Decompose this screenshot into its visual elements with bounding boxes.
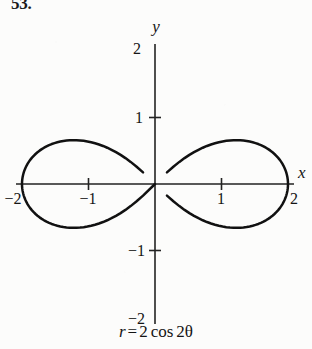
y-tick-label-neg1: −1 [128, 242, 145, 259]
equation-lhs: r [119, 322, 126, 341]
y-tick-label-pos1: 1 [135, 109, 143, 126]
equation-coefficient: 2 [139, 322, 148, 341]
equation-argument: 2θ [173, 322, 193, 341]
x-axis-label: x [297, 163, 306, 182]
axis-name-labels: y x [150, 17, 306, 182]
x-tick-label-neg1: −1 [79, 190, 96, 207]
equation-caption: r=2cos2θ [0, 322, 312, 342]
polar-figure: 53. y x −2 −1 1 [0, 0, 312, 349]
equation-equals: = [126, 322, 140, 341]
equation-function: cos [148, 322, 174, 341]
x-tick-label-pos1: 1 [217, 190, 225, 207]
x-tick-label-pos2: 2 [290, 190, 298, 207]
polar-plot-svg: y x −2 −1 1 2 2 1 −1 −2 [0, 0, 312, 330]
x-tick-label-neg2: −2 [4, 190, 21, 207]
plot-area: y x −2 −1 1 2 2 1 −1 −2 [0, 0, 312, 330]
y-tick-label-pos2: 2 [133, 40, 141, 57]
y-axis-label: y [150, 17, 160, 36]
